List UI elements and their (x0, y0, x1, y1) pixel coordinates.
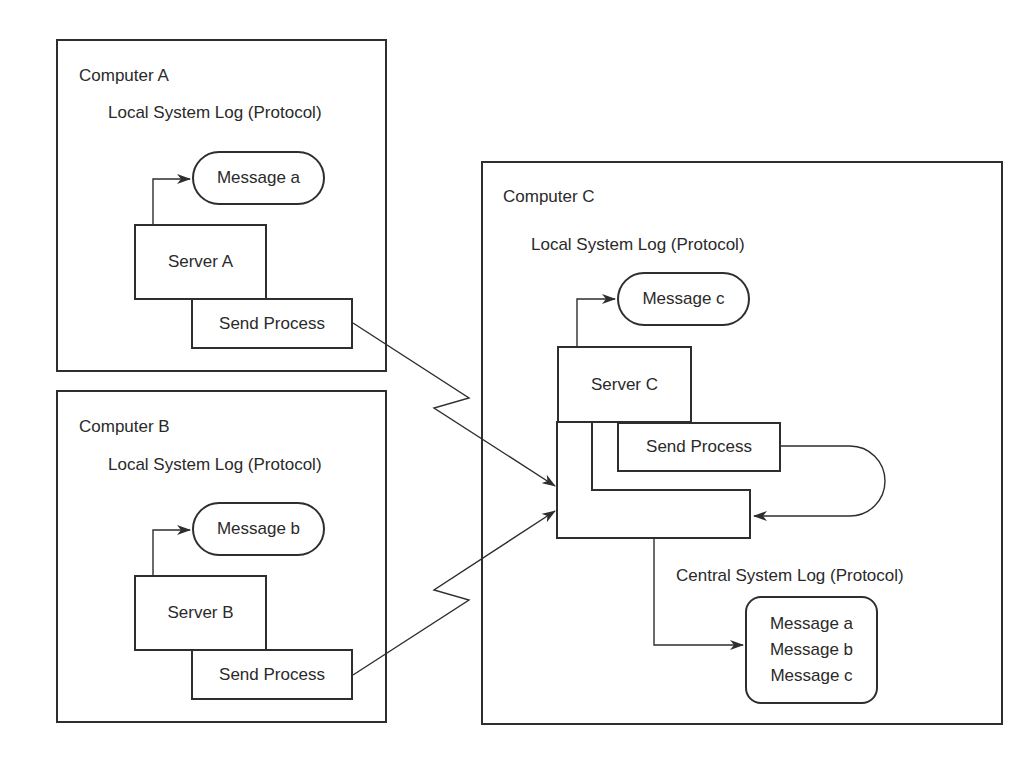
message-c-node: Message c (617, 272, 750, 326)
send-process-b-node: Send Process (191, 649, 353, 700)
computer-a-title: Computer A (79, 66, 169, 86)
send-process-c-node: Send Process (617, 422, 781, 472)
collector-process-label: Collector Process (571, 506, 704, 526)
central-message-b: Message b (770, 637, 853, 663)
server-b-node: Server B (134, 575, 267, 651)
computer-c-title: Computer C (503, 187, 595, 207)
send-process-a-node: Send Process (191, 298, 353, 349)
server-c-node: Server C (557, 346, 692, 423)
message-a-node: Message a (192, 151, 325, 205)
computer-b-log-label: Local System Log (Protocol) (108, 455, 322, 475)
central-log-label: Central System Log (Protocol) (676, 566, 904, 586)
computer-a-log-label: Local System Log (Protocol) (108, 103, 322, 123)
server-a-node: Server A (134, 224, 267, 300)
central-log-node: Message a Message b Message c (745, 596, 878, 704)
computer-b-title: Computer B (79, 417, 170, 437)
central-message-c: Message c (770, 663, 852, 689)
computer-c-log-label: Local System Log (Protocol) (531, 235, 745, 255)
message-b-node: Message b (192, 502, 325, 556)
central-message-a: Message a (770, 611, 853, 637)
